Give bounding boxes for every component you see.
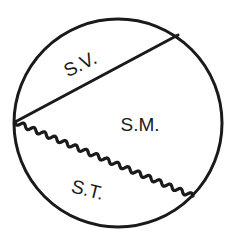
region-label-st: S.T. [69,176,106,204]
region-label-sv: S.V. [60,47,100,81]
outer-circle [14,19,222,227]
straight-chord [15,35,178,122]
region-diagram: S.V. S.M. S.T. [0,0,245,237]
region-label-sm: S.M. [120,114,159,135]
